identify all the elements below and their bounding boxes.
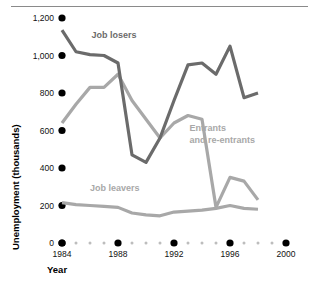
x-tick-minor-dot [103, 242, 106, 245]
y-tick-dot [58, 89, 65, 96]
y-tick-dot [58, 127, 65, 134]
chart-figure: Unemployment (thousands) 02004006008001,… [0, 0, 319, 287]
series-label: Job losers [91, 30, 136, 40]
x-tick-label: 1984 [53, 249, 72, 259]
x-tick-minor-dot [257, 242, 260, 245]
y-tick-label: 1,000 [33, 51, 55, 61]
series-labels-group: Job losersEntrantsand re-entrantsJob lea… [90, 30, 255, 193]
x-tick-minor-dot [271, 242, 274, 245]
x-tick-major-dot [114, 239, 121, 246]
x-tick-major-dot [58, 239, 65, 246]
x-tick-label: 1988 [109, 249, 128, 259]
y-tick-label: 200 [40, 201, 54, 211]
x-tick-major-dot [226, 239, 233, 246]
x-tick-minor-dot [243, 242, 246, 245]
x-tick-minor-dot [187, 242, 190, 245]
series-line [62, 203, 258, 216]
y-tick-label: 600 [40, 126, 54, 136]
x-tick-minor-dot [131, 242, 134, 245]
series-label: Entrants [189, 123, 226, 133]
y-tick-label: 1,200 [33, 13, 55, 23]
x-tick-major-dot [282, 239, 289, 246]
y-axis-title: Unemployment (thousands) [10, 124, 21, 250]
x-tick-minor-dot [215, 242, 218, 245]
x-tick-label: 1996 [221, 249, 240, 259]
x-axis-title: Year [47, 264, 67, 275]
x-tick-minor-dot [145, 242, 148, 245]
x-tick-label: 1992 [165, 249, 184, 259]
y-axis-title-group: Unemployment (thousands) [10, 124, 21, 250]
y-tick-dot [58, 164, 65, 171]
y-tick-label: 400 [40, 163, 54, 173]
x-tick-minor-dot [201, 242, 204, 245]
x-tick-minor-dot [75, 242, 78, 245]
y-tick-dot [58, 52, 65, 59]
line-chart: Unemployment (thousands) 02004006008001,… [0, 0, 319, 287]
y-tick-label: 0 [49, 238, 54, 248]
x-tick-minor-dot [89, 242, 92, 245]
series-label: and re-entrants [189, 135, 255, 145]
y-tick-label: 800 [40, 88, 54, 98]
y-axis-ticks: 02004006008001,0001,200 [33, 13, 66, 248]
x-tick-minor-dot [159, 242, 162, 245]
x-tick-label: 2000 [277, 249, 296, 259]
y-tick-dot [58, 14, 65, 21]
series-label: Job leavers [90, 183, 140, 193]
x-tick-major-dot [170, 239, 177, 246]
